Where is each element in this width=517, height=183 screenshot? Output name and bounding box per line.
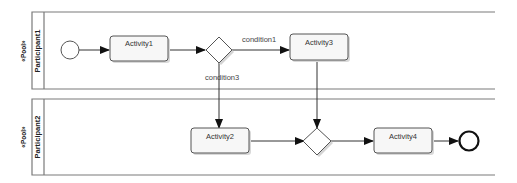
pool1-name: Participant1 — [33, 30, 42, 73]
activity4-label: Activity4 — [389, 132, 417, 141]
activity2-task[interactable]: Activity2 — [191, 128, 251, 155]
activity1-task[interactable]: Activity1 — [110, 36, 170, 63]
condition1-label: condition1 — [242, 35, 276, 44]
bpmn-diagram: «Pool» Participant1 «Pool» Participant2 … — [0, 0, 517, 183]
activity4-task[interactable]: Activity4 — [374, 128, 434, 155]
condition3-label: condition3 — [205, 73, 239, 82]
end-event[interactable] — [460, 132, 479, 151]
activity3-label: Activity3 — [305, 38, 333, 47]
pool2-stereotype: «Pool» — [20, 126, 27, 148]
pool2-name: Participant2 — [33, 116, 42, 159]
pool1-stereotype: «Pool» — [20, 40, 27, 62]
start-event[interactable] — [61, 41, 79, 59]
activity3-task[interactable]: Activity3 — [290, 34, 350, 62]
activity2-label: Activity2 — [206, 132, 234, 141]
activity1-label: Activity1 — [125, 39, 153, 48]
